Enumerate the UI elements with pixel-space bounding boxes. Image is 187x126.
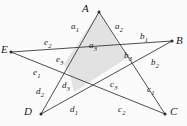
segment-label-subscript: 1 <box>145 36 148 43</box>
segment-label-d1: d1 <box>70 105 78 114</box>
segment-label-subscript: 1 <box>151 89 154 96</box>
segment-label-subscript: 2 <box>48 42 51 49</box>
segment-label-subscript: 3 <box>94 45 97 52</box>
segment-label-d2: d2 <box>36 87 44 96</box>
segment-label-base: a <box>89 40 94 50</box>
segment-label-subscript: 3 <box>60 59 63 66</box>
segment-label-a2: a2 <box>115 22 123 31</box>
segment-label-base: a <box>71 21 76 31</box>
segment-label-b3: b3 <box>124 51 132 60</box>
vertex-label-A: A <box>82 3 89 14</box>
segment-label-base: d <box>70 104 75 114</box>
segment-label-subscript: 2 <box>156 62 159 69</box>
segment-label-c3: c3 <box>110 80 117 89</box>
segment-label-subscript: 1 <box>37 72 40 79</box>
vertex-label-E: E <box>1 44 8 55</box>
segment-label-subscript: 3 <box>129 55 132 62</box>
vertex-dot-C <box>164 113 167 116</box>
segment-label-subscript: 2 <box>122 109 125 116</box>
segment-label-e3: e3 <box>56 55 63 64</box>
segment-label-e2: e2 <box>44 38 51 47</box>
vertex-dot-D <box>40 113 43 116</box>
segment-label-subscript: 2 <box>120 26 123 33</box>
segment-label-base: b <box>124 50 129 60</box>
segment-label-d3: d3 <box>62 81 70 90</box>
segment-label-base: d <box>36 86 41 96</box>
segment-label-a3: a3 <box>89 41 97 50</box>
vertex-dot-A <box>98 11 101 14</box>
vertex-label-B: B <box>176 35 183 46</box>
segment-label-c1: c1 <box>147 85 154 94</box>
star-figure: A B C D E a1a2a3b1b2b3c1c2c3d1d2d3e1e2e3 <box>0 0 187 126</box>
vertex-dot-E <box>10 51 13 54</box>
segment-label-subscript: 2 <box>41 91 44 98</box>
segment-label-subscript: 1 <box>75 109 78 116</box>
segment-label-base: b <box>151 57 156 67</box>
segment-label-b1: b1 <box>140 32 148 41</box>
segment-label-base: d <box>62 80 67 90</box>
vertex-label-C: C <box>170 106 177 117</box>
segment-label-b2: b2 <box>151 58 159 67</box>
segment-label-a1: a1 <box>71 22 79 31</box>
segment-label-base: b <box>140 31 145 41</box>
vertex-dot-B <box>171 40 174 43</box>
vertex-label-D: D <box>24 106 32 117</box>
segment-label-subscript: 1 <box>76 26 79 33</box>
segment-label-e1: e1 <box>33 68 40 77</box>
segment-label-subscript: 3 <box>114 84 117 91</box>
segment-label-c2: c2 <box>118 105 125 114</box>
segment-label-subscript: 3 <box>67 85 70 92</box>
segment-label-base: a <box>115 21 120 31</box>
